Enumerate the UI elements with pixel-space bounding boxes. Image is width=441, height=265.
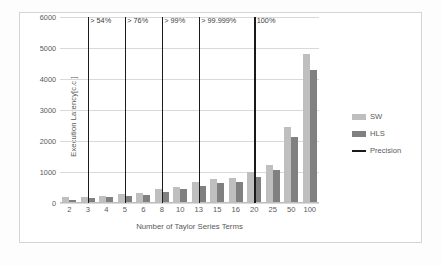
bar-sw: [266, 165, 273, 203]
legend-swatch-icon: [352, 131, 366, 137]
x-axis-tick-label: 2: [60, 205, 79, 219]
legend-item-precision: Precision: [352, 142, 418, 159]
y-axis-tick-label: 6000: [22, 14, 56, 21]
precision-line: [88, 17, 89, 203]
x-axis-tick-label: 15: [208, 205, 227, 219]
bar-group: [227, 17, 246, 203]
precision-annotation: 100%: [257, 17, 276, 25]
x-axis-tick-label: 8: [153, 205, 172, 219]
legend-item-sw: SW: [352, 108, 418, 125]
bar-groups: [60, 17, 319, 203]
y-axis-tick-label: 1000: [22, 169, 56, 176]
legend-swatch-icon: [352, 114, 366, 120]
x-axis-tick-label: 3: [79, 205, 98, 219]
bar-group: [264, 17, 283, 203]
y-axis-tick-label: 0: [22, 200, 56, 207]
bar-sw: [173, 187, 180, 203]
bar-sw: [192, 182, 199, 203]
chart-container: Execution Latency[c.c.] 0100020003000400…: [0, 0, 441, 265]
precision-annotation: > 76%: [127, 17, 148, 25]
x-axis-tick-label: 4: [97, 205, 116, 219]
bar-group: [171, 17, 190, 203]
precision-line: [199, 17, 200, 203]
legend-item-label: Precision: [370, 146, 401, 155]
bar-hls: [291, 137, 298, 203]
bar-group: [134, 17, 153, 203]
bar-sw: [229, 178, 236, 203]
bar-hls: [310, 70, 317, 203]
plot-area: > 54%> 76%> 99%> 99.999%100%: [60, 17, 319, 203]
bar-group: [208, 17, 227, 203]
chart-legend: SWHLSPrecision: [352, 108, 418, 159]
x-axis-tick-label: 5: [116, 205, 135, 219]
bar-hls: [217, 183, 224, 203]
bar-sw: [247, 172, 254, 203]
precision-line: [162, 17, 163, 203]
y-axis-tick-label: 5000: [22, 45, 56, 52]
x-axis-tick-label: 20: [245, 205, 264, 219]
x-axis-tick-label: 13: [190, 205, 209, 219]
precision-line: [254, 17, 255, 203]
bar-sw: [284, 127, 291, 203]
x-axis-tick-label: 16: [227, 205, 246, 219]
bar-hls: [236, 182, 243, 203]
precision-line: [125, 17, 126, 203]
x-axis-tick-label: 25: [264, 205, 283, 219]
precision-annotation: > 99.999%: [201, 17, 236, 25]
x-axis-tick-label: 50: [282, 205, 301, 219]
y-axis-tick-label: 4000: [22, 76, 56, 83]
bar-sw: [210, 179, 217, 203]
bar-group: [97, 17, 116, 203]
legend-item-label: SW: [370, 112, 382, 121]
x-axis-tick-label: 10: [171, 205, 190, 219]
legend-item-label: HLS: [370, 129, 385, 138]
y-axis-ticks: 0100020003000400050006000: [20, 17, 56, 203]
bar-group: [301, 17, 320, 203]
precision-annotation: > 54%: [90, 17, 111, 25]
x-axis-line: [60, 202, 319, 203]
bar-group: [282, 17, 301, 203]
x-axis-tick-label: 100: [301, 205, 320, 219]
bar-sw: [155, 189, 162, 203]
x-axis-ticks: 23456810131516202550100: [60, 205, 319, 219]
y-axis-tick-label: 3000: [22, 107, 56, 114]
x-axis-title: Number of Taylor Series Terms: [60, 222, 319, 231]
gridline: [60, 203, 319, 204]
legend-swatch-icon: [352, 150, 366, 152]
bar-group: [60, 17, 79, 203]
precision-annotation: > 99%: [164, 17, 185, 25]
y-axis-tick-label: 2000: [22, 138, 56, 145]
bar-hls: [180, 189, 187, 203]
bar-hls: [273, 170, 280, 203]
bar-sw: [303, 54, 310, 203]
legend-item-hls: HLS: [352, 125, 418, 142]
x-axis-tick-label: 6: [134, 205, 153, 219]
